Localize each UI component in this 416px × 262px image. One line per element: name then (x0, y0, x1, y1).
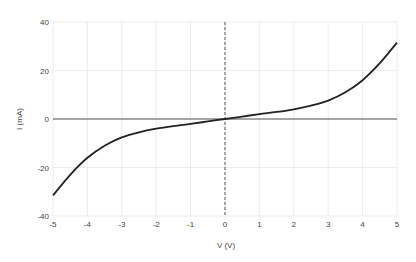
x-tick-label: -4 (84, 220, 92, 229)
y-tick-label: 40 (40, 18, 49, 27)
iv-curve-chart: -5-4-3-2-1012345 40200-20-40 V (V) I (mA… (0, 0, 416, 262)
x-tick-label: -3 (118, 220, 126, 229)
y-tick-labels: 40200-20-40 (37, 18, 49, 221)
x-tick-label: 5 (395, 220, 400, 229)
x-tick-label: -5 (49, 220, 57, 229)
x-tick-labels: -5-4-3-2-1012345 (49, 220, 399, 229)
x-tick-label: 3 (326, 220, 331, 229)
y-axis-label: I (mA) (15, 108, 24, 130)
x-tick-label: 0 (223, 220, 228, 229)
x-tick-label: 1 (257, 220, 262, 229)
y-tick-label: 0 (45, 115, 50, 124)
x-axis-label: V (V) (217, 241, 236, 250)
x-tick-label: 4 (360, 220, 365, 229)
y-tick-label: -40 (37, 212, 49, 221)
y-tick-label: -20 (37, 164, 49, 173)
x-tick-label: -2 (153, 220, 161, 229)
x-tick-label: -1 (187, 220, 195, 229)
y-tick-label: 20 (40, 67, 49, 76)
x-tick-label: 2 (292, 220, 297, 229)
